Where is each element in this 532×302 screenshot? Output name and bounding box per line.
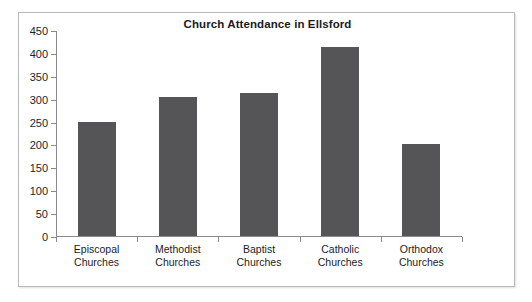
bar — [321, 47, 359, 236]
x-category-label-line: Baptist — [237, 243, 282, 256]
plot-area: 050100150200250300350400450 — [56, 31, 462, 237]
y-tick-label: 250 — [18, 117, 48, 129]
x-category-label-line: Catholic — [318, 243, 363, 256]
chart-frame: Church Attendance in Ellsford 0501001502… — [18, 12, 515, 287]
y-tick-mark — [51, 123, 56, 124]
x-category-label: BaptistChurches — [237, 243, 282, 269]
y-tick-mark — [51, 31, 56, 32]
y-tick-label: 100 — [18, 185, 48, 197]
x-category-label-line: Churches — [318, 256, 363, 269]
x-tick-mark — [381, 237, 382, 242]
y-tick-label: 350 — [18, 71, 48, 83]
y-tick-mark — [51, 100, 56, 101]
x-axis-line — [56, 236, 462, 237]
bar — [402, 144, 440, 236]
x-category-label: CatholicChurches — [318, 243, 363, 269]
x-tick-mark — [218, 237, 219, 242]
x-category-label-line: Methodist — [155, 243, 201, 256]
y-tick-mark — [51, 145, 56, 146]
y-tick-label: 300 — [18, 94, 48, 106]
x-category-label: EpiscopalChurches — [74, 243, 120, 269]
x-category-label-line: Churches — [399, 256, 444, 269]
y-tick-label: 0 — [18, 231, 48, 243]
bar — [78, 122, 116, 236]
x-tick-mark — [137, 237, 138, 242]
y-tick-mark — [51, 191, 56, 192]
y-tick-label: 150 — [18, 162, 48, 174]
x-category-label-line: Orthodox — [399, 243, 444, 256]
x-tick-mark — [300, 237, 301, 242]
y-tick-mark — [51, 214, 56, 215]
y-tick-mark — [51, 77, 56, 78]
y-tick-mark — [51, 168, 56, 169]
y-tick-label: 400 — [18, 48, 48, 60]
x-category-label: MethodistChurches — [155, 243, 201, 269]
x-category-label-line: Churches — [155, 256, 201, 269]
bar — [240, 93, 278, 236]
chart-title: Church Attendance in Ellsford — [19, 18, 516, 30]
x-category-label-line: Episcopal — [74, 243, 120, 256]
y-tick-mark — [51, 54, 56, 55]
y-axis-line — [56, 31, 57, 237]
x-tick-mark — [56, 237, 57, 242]
x-tick-mark — [462, 237, 463, 242]
x-category-label-line: Churches — [74, 256, 120, 269]
x-category-label-line: Churches — [237, 256, 282, 269]
y-tick-label: 450 — [18, 25, 48, 37]
y-tick-label: 50 — [18, 208, 48, 220]
x-category-label: OrthodoxChurches — [399, 243, 444, 269]
y-tick-label: 200 — [18, 139, 48, 151]
bar — [159, 97, 197, 236]
